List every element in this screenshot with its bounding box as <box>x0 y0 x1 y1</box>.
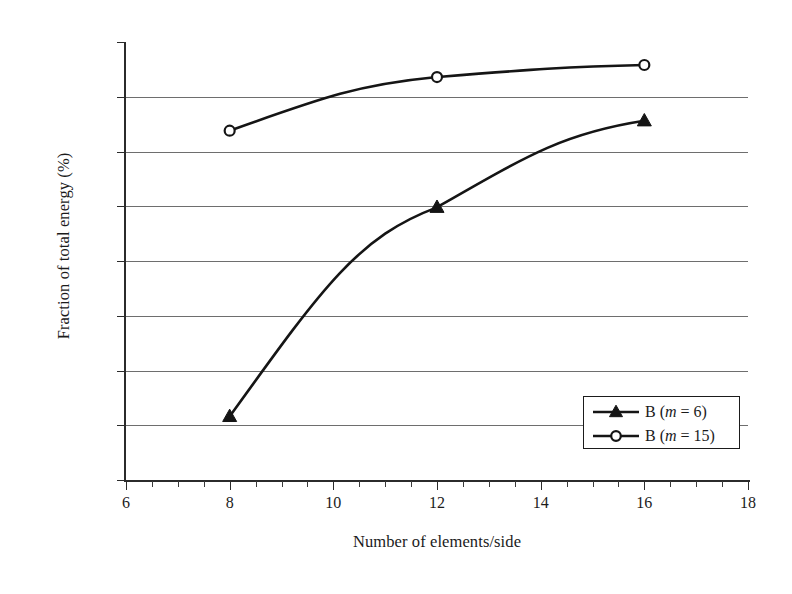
y-axis-tick <box>117 206 125 207</box>
y-axis-tick <box>117 97 125 98</box>
x-axis-tick-label: 10 <box>303 494 363 512</box>
y-axis-tick <box>117 371 125 372</box>
legend-triangle-icon <box>591 402 641 422</box>
x-axis-tick-major <box>541 481 542 490</box>
x-axis-tick-minor <box>204 481 205 487</box>
x-axis-tick-minor <box>282 481 283 487</box>
x-axis-tick-minor <box>152 481 153 487</box>
plot-area: 60.065.070.075.080.085.090.095.0100.0 68… <box>126 42 748 480</box>
x-axis-tick-label: 6 <box>96 494 156 512</box>
data-point-marker-circle <box>432 72 442 82</box>
legend-item-2[interactable]: B (m = 15) <box>584 424 739 448</box>
x-axis-tick-label: 12 <box>407 494 467 512</box>
x-axis-title: Number of elements/side <box>126 532 748 552</box>
y-axis-tick <box>117 425 125 426</box>
x-axis-tick-label: 14 <box>511 494 571 512</box>
y-axis-tick <box>117 316 125 317</box>
x-axis-tick-major <box>748 481 749 490</box>
chart-figure: Fraction of total energy (%) Number of e… <box>0 0 792 594</box>
x-axis-tick-minor <box>385 481 386 487</box>
x-axis-tick-major <box>230 481 231 490</box>
legend-item-1[interactable]: B (m = 6) <box>584 400 739 424</box>
x-axis-tick-minor <box>593 481 594 487</box>
x-axis-tick-major <box>644 481 645 490</box>
x-axis-tick-minor <box>722 481 723 487</box>
x-axis-tick-minor <box>670 481 671 487</box>
x-axis-tick-minor <box>463 481 464 487</box>
y-axis-tick <box>117 480 125 481</box>
x-axis-tick-minor <box>696 481 697 487</box>
y-axis-title: Fraction of total energy (%) <box>54 96 74 396</box>
x-axis-tick-label: 8 <box>200 494 260 512</box>
y-axis-tick <box>117 152 125 153</box>
x-axis-tick-major <box>437 481 438 490</box>
data-point-marker-triangle <box>430 200 444 212</box>
y-axis-tick <box>117 261 125 262</box>
x-axis-tick-minor <box>618 481 619 487</box>
x-axis-tick-minor <box>178 481 179 487</box>
legend-circle-icon <box>591 426 641 446</box>
x-axis-tick-minor <box>567 481 568 487</box>
x-axis-tick-minor <box>256 481 257 487</box>
data-point-marker-circle <box>639 60 649 70</box>
x-axis-tick-minor <box>359 481 360 487</box>
x-axis-tick-major <box>333 481 334 490</box>
legend-item-label: B (m = 15) <box>641 427 715 445</box>
x-axis-tick-minor <box>489 481 490 487</box>
x-axis-tick-minor <box>307 481 308 487</box>
x-axis-tick-minor <box>411 481 412 487</box>
legend-item-label: B (m = 6) <box>641 403 707 421</box>
legend-box: B (m = 6)B (m = 15) <box>583 396 740 449</box>
data-point-marker-circle <box>225 126 235 136</box>
x-axis-tick-label: 18 <box>718 494 778 512</box>
x-axis-tick-label: 16 <box>614 494 674 512</box>
x-axis-tick-minor <box>515 481 516 487</box>
series-line-1 <box>230 121 645 417</box>
data-point-marker-triangle <box>637 113 651 125</box>
y-axis-tick <box>117 42 125 43</box>
x-axis-tick-major <box>126 481 127 490</box>
